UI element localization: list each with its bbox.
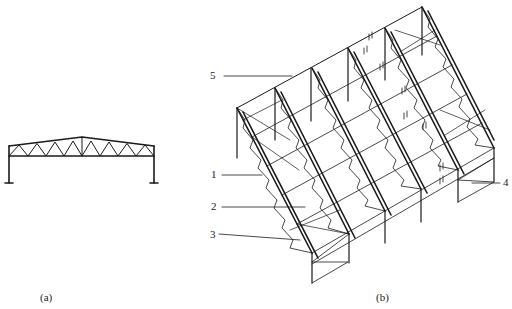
label-5: 5 xyxy=(210,70,216,81)
isometric-structure xyxy=(219,7,500,283)
label-3: 3 xyxy=(210,229,216,240)
label-1: 1 xyxy=(211,169,217,180)
truss-frame-5 xyxy=(385,28,464,174)
leader-lines xyxy=(219,76,500,240)
label-4: 4 xyxy=(503,177,509,188)
truss-frame-3 xyxy=(312,68,391,215)
label-2: 2 xyxy=(211,201,217,212)
truss-frame-1 xyxy=(237,108,318,258)
caption-b: (b) xyxy=(376,292,389,303)
elevation-frame xyxy=(5,137,158,183)
truss-frame-2 xyxy=(275,88,355,238)
truss-frame-4 xyxy=(348,48,427,193)
structure-diagram xyxy=(0,0,512,309)
caption-a: (a) xyxy=(40,292,52,303)
